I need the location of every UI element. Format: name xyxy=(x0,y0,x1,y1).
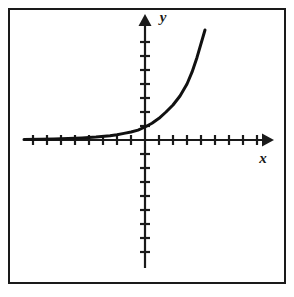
y-axis-label: y xyxy=(158,9,167,25)
figure-root: x xyxy=(0,0,294,297)
x-axis-label: x xyxy=(258,150,267,166)
graph-canvas: x xyxy=(0,0,294,297)
figure-border xyxy=(9,9,285,283)
